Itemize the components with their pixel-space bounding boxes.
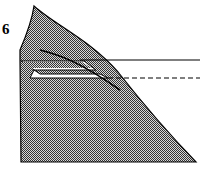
shaded-paper-shape: [20, 6, 196, 162]
origami-step-diagram: [0, 0, 200, 171]
